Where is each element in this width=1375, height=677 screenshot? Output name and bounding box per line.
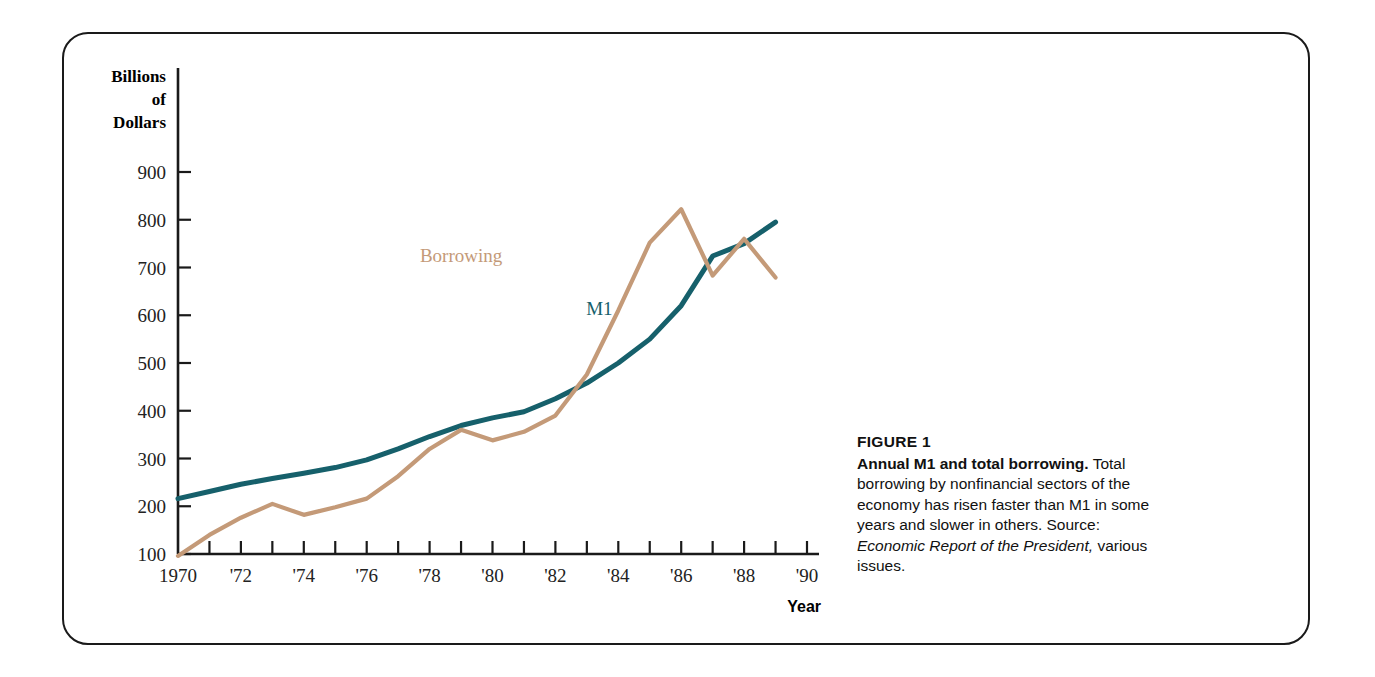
caption-bold-lead: Annual M1 and total borrowing. <box>857 455 1089 472</box>
y-axis-tick-label: 200 <box>138 496 167 517</box>
x-axis-tick-label: '88 <box>733 565 755 586</box>
x-axis-tick-label: '90 <box>796 565 818 586</box>
y-axis-tick-label: 700 <box>138 258 167 279</box>
x-axis-tick-label: '72 <box>230 565 252 586</box>
caption-body: Annual M1 and total borrowing. Total bor… <box>857 454 1157 577</box>
x-axis-tick-label: '86 <box>670 565 692 586</box>
x-axis-tick-label: '78 <box>418 565 440 586</box>
series-label-m1: M1 <box>586 298 612 319</box>
x-axis-tick-label: '74 <box>293 565 316 586</box>
y-axis-tick-label: 300 <box>138 449 167 470</box>
y-axis-title-line: Dollars <box>113 113 166 132</box>
y-axis-tick-label: 400 <box>138 401 167 422</box>
x-axis-tick-label: 1970 <box>159 565 197 586</box>
y-axis-tick-label: 800 <box>138 210 167 231</box>
series-label-borrowing: Borrowing <box>420 245 503 266</box>
chart-area: BillionsofDollars90080070060050040030020… <box>62 32 902 645</box>
line-chart: BillionsofDollars90080070060050040030020… <box>62 32 902 645</box>
x-axis-tick-label: '84 <box>607 565 630 586</box>
y-axis-tick-label: 900 <box>138 162 167 183</box>
y-axis-tick-label: 500 <box>138 353 167 374</box>
x-axis-tick-label: '82 <box>544 565 566 586</box>
caption-source-title: Economic Report of the President, <box>857 537 1093 554</box>
x-axis-tick-label: '76 <box>355 565 377 586</box>
y-axis-tick-label: 600 <box>138 305 167 326</box>
y-axis-title-line: Billions <box>111 67 166 86</box>
figure-root: BillionsofDollars90080070060050040030020… <box>0 0 1375 677</box>
y-axis-tick-label: 100 <box>138 544 167 565</box>
figure-caption: FIGURE 1 Annual M1 and total borrowing. … <box>857 432 1157 577</box>
caption-figure-number: FIGURE 1 <box>857 432 1157 453</box>
y-axis-title-line: of <box>152 90 167 109</box>
x-axis-title: Year <box>787 598 821 615</box>
x-axis-tick-label: '80 <box>481 565 503 586</box>
